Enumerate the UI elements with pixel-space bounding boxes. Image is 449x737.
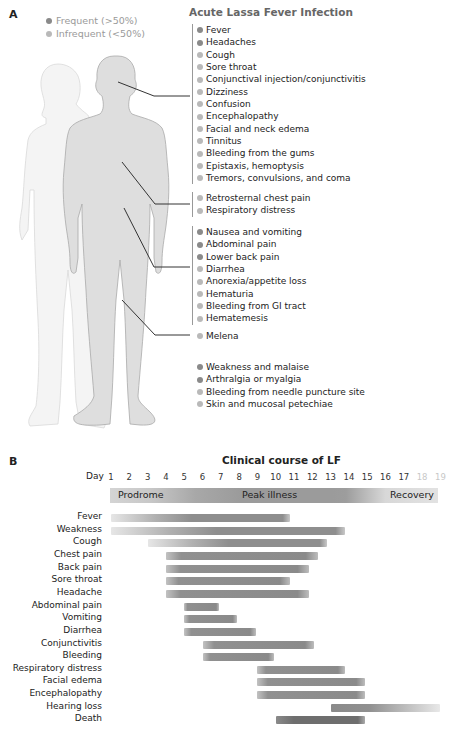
symptom-row-label: Abdominal pain [32,600,102,610]
symptom-item: Lower back pain [197,251,306,263]
symptom-label: Retrosternal chest pain [206,192,311,204]
symptom-row-label: Cough [73,536,102,546]
symptom-item: Tremors, convulsions, and coma [197,172,366,184]
symptom-row-label: Death [75,713,102,723]
infrequent-dot-icon [197,389,203,395]
symptom-row-label: Chest pain [54,549,102,559]
panel-b-letter: B [9,455,17,468]
day-tick-label: 19 [435,472,446,482]
symptom-label: Melena [206,330,239,342]
symptom-label: Weakness and malaise [206,361,309,373]
symptom-item: Anorexia/appetite loss [197,275,306,287]
symptom-row-label: Facial edema [43,675,102,685]
symptom-label: Cough [206,49,235,61]
day-tick-label: 9 [255,472,260,482]
symptom-label: Fever [206,24,231,36]
infrequent-dot-icon [197,126,203,132]
symptom-label: Facial and neck edema [206,123,309,135]
infrequent-dot-icon [197,279,203,285]
frequent-dot-icon [197,254,203,260]
head-symptom-group: FeverHeadachesCoughSore throatConjunctiv… [192,24,366,184]
symptom-item: Hematemesis [197,312,306,324]
symptom-item: Tinnitus [197,135,366,147]
infrequent-dot-icon [197,333,203,339]
symptom-item: Retrosternal chest pain [197,192,311,204]
phase-prodrome-label: Prodrome [118,489,164,500]
symptom-duration-bar [166,552,318,560]
symptom-label: Respiratory distress [206,204,295,216]
symptom-duration-bar [111,527,345,535]
day-tick-label: 14 [343,472,354,482]
infrequent-dot-icon [197,77,203,83]
infrequent-dot-icon [197,64,203,70]
panel-a-letter: A [9,8,18,21]
day-tick-label: 6 [200,472,205,482]
symptom-duration-bar [203,641,315,649]
symptom-row-label: Vomiting [62,612,102,622]
symptom-item: Skin and mucosal petechiae [197,398,365,410]
infrequent-dot-icon [197,101,203,107]
symptom-label: Hematuria [206,288,254,300]
symptom-item: Arthralgia or myalgia [197,373,365,385]
symptom-duration-bar [184,615,237,623]
lower-symptom-group: Melena [193,330,239,342]
frequent-dot-icon [197,377,203,383]
legend: Frequent (>50%) Infrequent (<50%) [46,14,145,40]
symptom-item: Cough [197,49,366,61]
day-tick-label: 3 [145,472,150,482]
day-tick-label: 13 [325,472,336,482]
symptom-item: Confusion [197,98,366,110]
legend-infrequent-label: Infrequent (<50%) [56,28,145,39]
symptom-label: Sore throat [206,61,256,73]
symptom-row-label: Encephalopathy [29,688,102,698]
symptom-label: Epistaxis, hemoptysis [206,160,304,172]
day-tick-label: 18 [417,472,428,482]
symptom-item: Respiratory distress [197,204,311,216]
day-tick-label: 15 [362,472,373,482]
frequent-dot-icon [197,242,203,248]
symptom-duration-bar [166,590,309,598]
day-tick-label: 8 [236,472,241,482]
legend-frequent-label: Frequent (>50%) [56,15,137,26]
symptom-duration-bar [148,539,327,547]
frequent-dot-icon [197,229,203,235]
symptom-duration-bar [166,577,290,585]
infrequent-dot-icon [197,163,203,169]
phase-recovery-label: Recovery [390,489,434,500]
infrequent-dot-icon [197,208,203,214]
symptom-label: Nausea and vomiting [206,226,302,238]
abdomen-symptom-group: Nausea and vomitingAbdominal painLower b… [192,226,306,325]
symptom-label: Hematemesis [206,312,268,324]
infrequent-dot-icon [197,175,203,181]
infrequent-dot-icon [197,114,203,120]
symptom-label: Arthralgia or myalgia [206,373,301,385]
symptom-item: Headaches [197,36,366,48]
symptom-duration-bar [184,628,255,636]
symptom-item: Sore throat [197,61,366,73]
panel-b-title: Clinical course of LF [222,454,341,466]
day-tick-label: 17 [398,472,409,482]
symptom-item: Conjunctival injection/conjunctivitis [197,73,366,85]
symptom-item: Bleeding from GI tract [197,300,306,312]
infrequent-dot-icon [197,401,203,407]
symptom-duration-bar [257,666,345,674]
day-tick-label: 5 [181,472,186,482]
symptom-item: Bleeding from the gums [197,147,366,159]
day-ticks: 12345678910111213141516171819 [0,472,449,484]
symptom-label: Diarrhea [206,263,245,275]
symptom-label: Headaches [206,36,256,48]
infrequent-dot-icon [197,266,203,272]
symptom-item: Hematuria [197,288,306,300]
symptom-label: Bleeding from the gums [206,147,315,159]
symptom-label: Tinnitus [206,135,242,147]
symptom-item: Diarrhea [197,263,306,275]
frequent-dot-icon [197,364,203,370]
systemic-symptom-group: Weakness and malaiseArthralgia or myalgi… [193,361,365,410]
symptom-row-label: Hearing loss [46,701,102,711]
symptom-duration-bar [111,514,290,522]
course-chart: FeverWeaknessCoughChest painBack painSor… [0,510,449,730]
symptom-label: Dizziness [206,86,248,98]
symptom-label: Tremors, convulsions, and coma [206,172,351,184]
infrequent-dot-icon [197,303,203,309]
day-tick-label: 10 [270,472,281,482]
